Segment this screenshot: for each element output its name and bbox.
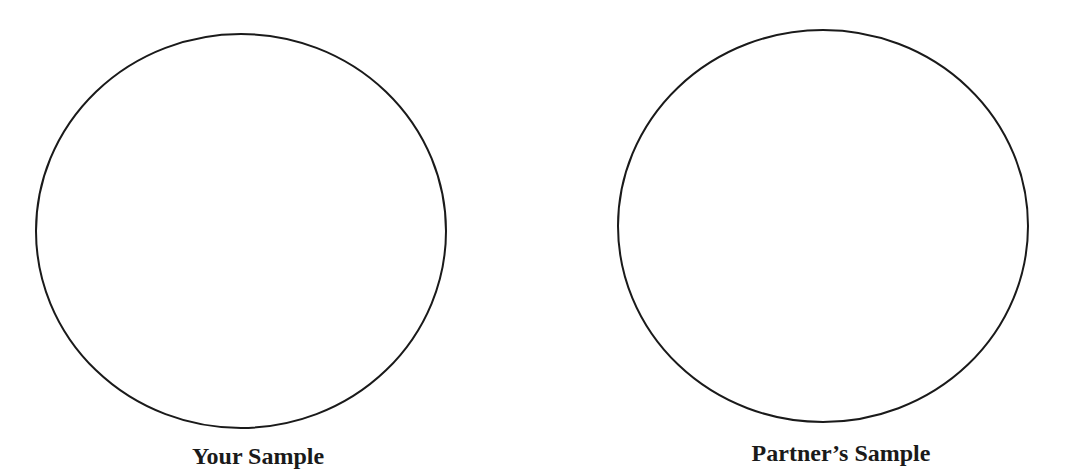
- your-sample-circle: [36, 34, 446, 428]
- partner-sample-circle: [618, 30, 1028, 422]
- your-sample-label: Your Sample: [192, 444, 324, 468]
- partner-sample-label: Partner’s Sample: [752, 441, 931, 465]
- circles-canvas: [0, 0, 1083, 473]
- sample-circles-figure: Your Sample Partner’s Sample: [0, 0, 1083, 473]
